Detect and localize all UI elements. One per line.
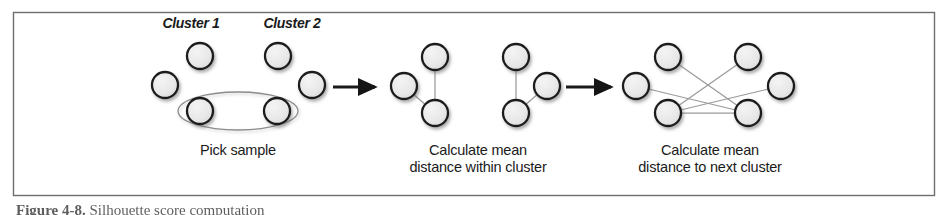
data-point-node [655, 100, 681, 126]
figure-container: Cluster 1Cluster 2Pick sampleCalculate m… [0, 0, 949, 215]
data-point-node [534, 73, 560, 99]
data-point-node [264, 98, 290, 124]
figure-caption-label: Figure 4-8. [16, 202, 86, 215]
figure-caption: Figure 4-8. Silhouette score computation [16, 202, 264, 215]
data-point-node [391, 73, 417, 99]
figure-caption-clip: Figure 4-8. Silhouette score computation [0, 202, 949, 215]
data-point-node [422, 100, 448, 126]
figure-caption-text: Silhouette score computation [89, 202, 264, 215]
data-point-node [152, 72, 178, 98]
panel-caption-line: distance to next cluster [638, 159, 782, 175]
data-point-node [187, 43, 213, 69]
data-point-node [623, 73, 649, 99]
panel-caption-line: Calculate mean [429, 142, 527, 158]
data-point-node [768, 73, 794, 99]
data-point-node [735, 100, 761, 126]
panel-caption-line: distance within cluster [409, 159, 547, 175]
data-point-node [265, 43, 291, 69]
data-point-node [503, 100, 529, 126]
panel-caption: Pick sample [200, 142, 276, 158]
data-point-node [655, 44, 681, 70]
data-point-node [299, 72, 325, 98]
data-point-node [503, 44, 529, 70]
cluster-label: Cluster 2 [263, 15, 321, 31]
data-point-node [735, 44, 761, 70]
panel-caption-line: Calculate mean [661, 142, 759, 158]
silhouette-score-diagram: Cluster 1Cluster 2Pick sampleCalculate m… [0, 0, 949, 215]
cluster-label: Cluster 1 [162, 15, 220, 31]
data-point-node [422, 44, 448, 70]
data-point-node [187, 98, 213, 124]
